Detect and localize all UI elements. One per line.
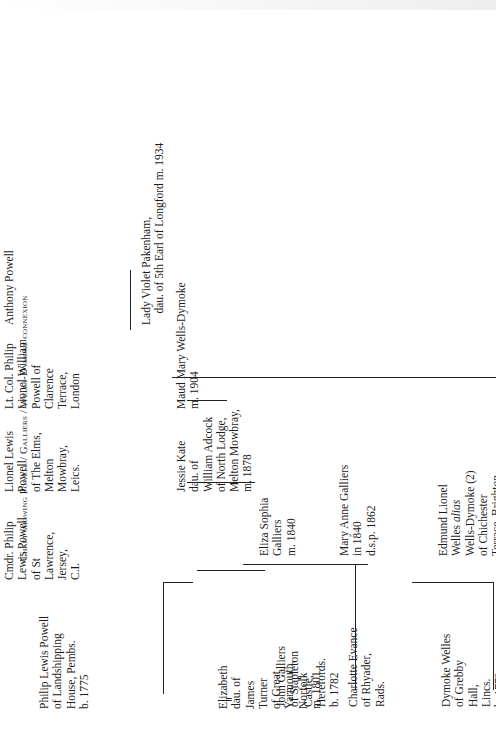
person-dymoke-welles: Dymoke Welles of Grebby Hall, Lincs. b. … [440, 634, 496, 707]
person-john-galliers: John Galliers of Stapleton Castle, Heref… [275, 646, 341, 707]
marriage-line [197, 570, 265, 571]
edmund-rest: Wells-Dymoke (2) of Chichester Terrace, … [464, 470, 496, 556]
person-maud-mary-wells-dymoke: Maud Mary Wells-Dymoke m. 1904 [175, 282, 202, 409]
person-philip-lewis-powell: Philip Lewis Powell of Landshipping Hous… [38, 616, 91, 709]
person-lt-col-philip-powell: Lt. Col. Philip Lionel William Powell of… [3, 339, 83, 409]
descent-line [355, 564, 356, 690]
descent-line [163, 582, 164, 694]
descent-line [412, 582, 494, 583]
descent-line [172, 377, 496, 378]
person-charlotte-evance: Charlotte Evance of Rhyader, Rads. [347, 627, 387, 707]
descent-line [163, 582, 193, 583]
person-eliza-sophia-galliers: Eliza Sophia Galliers m. 1840 [258, 498, 298, 556]
person-jessie-kate-adcock: Jessie Kate dau. of William Adcock of No… [175, 409, 255, 492]
descent-line [243, 564, 368, 565]
genealogy-chart: Chart showing Powell / Galliers / Wells-… [0, 0, 496, 746]
marriage-line [187, 400, 227, 401]
person-lionel-lewis-powell: Lionel Lewis Powell of The Elms, Melton … [3, 431, 83, 492]
alias-label: alias [450, 500, 462, 522]
person-anthony-powell: Anthony Powell [3, 250, 16, 325]
person-lady-violet-pakenham: Lady Violet Pakenham, dau. of 5th Earl o… [140, 143, 167, 325]
page-edge [0, 0, 496, 10]
person-cmdr-philip-powell: Cmdr. Philip Lewis Powell of St Lawrence… [3, 517, 83, 580]
person-edmund-lionel-wells-dymoke: Edmund Lionel Welles alias Wells-Dymoke … [437, 470, 496, 556]
marriage-line [187, 482, 255, 483]
descent-line [493, 582, 494, 690]
person-mary-anne-galliers: Mary Anne Galliers in 1840 d.s.p. 1862 [338, 465, 378, 556]
marriage-line [130, 270, 131, 330]
